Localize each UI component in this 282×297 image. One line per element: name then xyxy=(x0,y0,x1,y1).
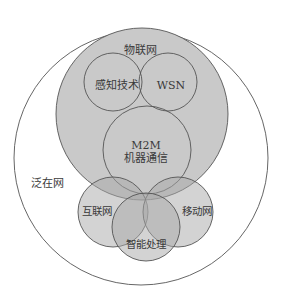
ubiquitous-network-label: 泛在网 xyxy=(31,177,64,190)
m2m-label-line1: M2M xyxy=(131,139,161,152)
mobile-label: 移动网 xyxy=(182,205,212,217)
wsn-label: WSN xyxy=(157,79,186,92)
network-venn-diagram: 物联网 感知技术 WSN M2M 机器通信 泛在网 互联网 移动网 智能处理 xyxy=(0,0,282,297)
m2m-label-line2: 机器通信 xyxy=(124,151,168,165)
intelligent-processing-label: 智能处理 xyxy=(126,238,167,250)
intelligent-processing-circle xyxy=(112,193,180,261)
internet-label: 互联网 xyxy=(82,205,112,217)
sensing-label: 感知技术 xyxy=(95,78,139,92)
iot-label: 物联网 xyxy=(124,43,157,57)
